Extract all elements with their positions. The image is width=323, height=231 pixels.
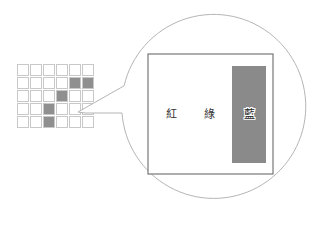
pixel-cell xyxy=(83,91,94,102)
pixel-cell xyxy=(57,65,68,76)
pixel-cell xyxy=(70,117,81,128)
label-blue: 藍 xyxy=(244,108,255,121)
pixel-cell xyxy=(83,65,94,76)
pixel-cell xyxy=(31,78,42,89)
pixel-cell xyxy=(44,78,55,89)
pixel-cell xyxy=(31,117,42,128)
pixel-grid xyxy=(18,65,94,128)
pixel-cell xyxy=(18,104,29,115)
pixel-cell xyxy=(18,78,29,89)
pixel-cell xyxy=(83,117,94,128)
pixel-cell-filled xyxy=(70,78,81,89)
pixel-cell xyxy=(18,65,29,76)
pixel-cell-filled xyxy=(44,104,55,115)
pixel-cell xyxy=(31,104,42,115)
label-green: 綠 xyxy=(204,108,215,121)
pixel-cell-filled xyxy=(83,78,94,89)
pixel-cell xyxy=(70,65,81,76)
pixel-cell xyxy=(44,65,55,76)
pixel-cell-filled xyxy=(57,91,68,102)
label-red: 紅 xyxy=(166,108,177,121)
pixel-cell xyxy=(44,91,55,102)
pixel-cell xyxy=(70,91,81,102)
pixel-cell xyxy=(57,117,68,128)
pixel-cell xyxy=(57,104,68,115)
pixel-cell xyxy=(57,78,68,89)
pixel-cell xyxy=(18,91,29,102)
pixel-cell xyxy=(70,104,81,115)
pixel-cell xyxy=(18,117,29,128)
pixel-cell xyxy=(31,65,42,76)
pixel-cell xyxy=(31,91,42,102)
magnified-pixel-diagram: 紅 綠 藍 xyxy=(0,0,323,231)
pixel-cell-filled xyxy=(44,117,55,128)
